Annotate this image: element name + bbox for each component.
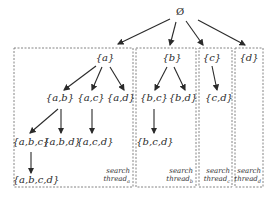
node-ac: {a,c} [77, 92, 104, 104]
node-ad: {a,d} [107, 92, 135, 104]
thread-label-d: search threadd [226, 167, 261, 185]
thread-label-c: search threadc [196, 167, 230, 185]
node-c: {c} [203, 52, 221, 64]
node-b: {b} [162, 52, 181, 64]
node-a: {a} [96, 52, 115, 64]
node-cd: {c,d} [205, 92, 233, 104]
thread-label-a: search threada [96, 167, 130, 185]
node-bc: {b,c} [140, 92, 168, 104]
thread-label-b: search threadb [159, 167, 193, 185]
node-bcd: {b,c,d} [136, 136, 174, 148]
node-acd: {a,c,d} [76, 136, 113, 148]
root-node: Ø [176, 6, 184, 18]
node-d: {d} [239, 52, 258, 64]
node-ab: {a,b} [46, 92, 74, 104]
node-bd: {b,d} [169, 92, 198, 104]
node-abd: {a,b,d} [43, 136, 81, 148]
node-abcd: {a,b,c,d} [13, 174, 60, 186]
